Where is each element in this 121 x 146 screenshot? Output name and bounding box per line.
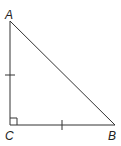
vertex-label-b: B: [108, 129, 116, 143]
right-angle-marker: [10, 118, 17, 125]
vertex-label-a: A: [4, 8, 13, 22]
side-ab: [10, 21, 115, 125]
vertex-label-c: C: [5, 129, 14, 143]
triangle-diagram: A C B: [0, 0, 121, 146]
